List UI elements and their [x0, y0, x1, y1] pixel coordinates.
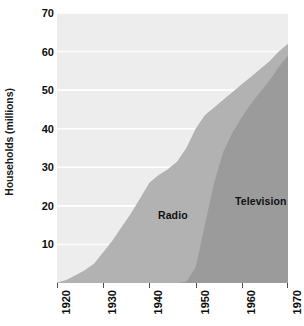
x-tick-label: 1930: [107, 290, 118, 314]
x-tick-label: 1950: [200, 290, 211, 314]
y-tick-label: 10: [20, 239, 54, 250]
x-tick-label: 1920: [61, 290, 72, 314]
plot-area: Radio Television: [57, 13, 288, 283]
x-tick-mark: [242, 283, 243, 288]
x-tick-label: 1960: [246, 290, 257, 314]
x-tick-mark: [57, 283, 58, 288]
y-tick-label: 50: [20, 85, 54, 96]
area-chart-svg: [57, 13, 288, 283]
y-tick-label: 70: [20, 8, 54, 19]
x-tick-mark: [149, 283, 150, 288]
x-tick-label: 1940: [153, 290, 164, 314]
x-tick-label: 1970: [292, 290, 303, 314]
x-tick-mark: [103, 283, 104, 288]
series-label-television: Television: [235, 195, 287, 207]
x-axis: 192019301940195019601970: [57, 283, 288, 326]
series-label-radio: Radio: [158, 209, 188, 221]
y-tick-label: 30: [20, 162, 54, 173]
y-tick-label: 40: [20, 123, 54, 134]
y-tick-label: 60: [20, 46, 54, 57]
chart-figure: Households (millions) 10203040506070 Rad…: [0, 0, 304, 326]
x-tick-mark: [287, 283, 288, 288]
x-tick-mark: [196, 283, 197, 288]
y-axis-title-text: Households (millions): [3, 88, 15, 196]
y-tick-label: 20: [20, 200, 54, 211]
y-axis-tick-labels: 10203040506070: [16, 0, 54, 326]
